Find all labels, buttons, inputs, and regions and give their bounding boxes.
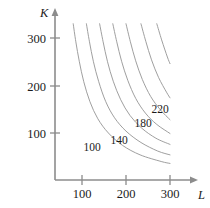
x-tick-label-200: 200 [117,187,136,201]
y-axis-arrowhead [52,8,59,16]
y-tick-label-300: 300 [27,32,46,46]
contour-plot-figure: 300 200 100 100 200 300 K L 100140180220 [0,0,210,208]
x-ticks-group: 100 200 300 [73,175,180,201]
y-tick-label-200: 200 [27,80,46,94]
contour-level-label: 180 [134,117,152,129]
contour-level-label: 140 [110,134,128,146]
x-axis-arrowhead [190,177,198,184]
y-tick-label-100: 100 [27,127,46,141]
x-tick-label-300: 300 [161,187,180,201]
contour-level-label: 220 [151,103,169,115]
axes-group [52,8,198,183]
contour-level-label: 100 [83,141,101,153]
x-axis-title: L [197,188,205,202]
level-curve [157,24,170,64]
level-curve [86,24,170,155]
y-axis-title: K [39,6,49,20]
x-tick-label-100: 100 [73,187,92,201]
